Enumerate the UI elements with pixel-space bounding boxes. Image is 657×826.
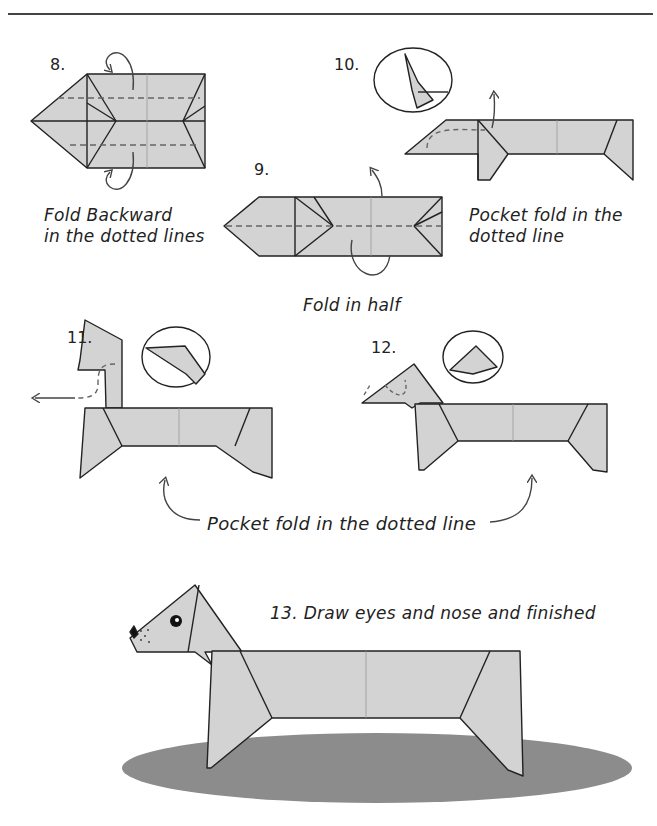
- arrow-left: [164, 480, 200, 520]
- step-8-caption-line2: in the dotted lines: [44, 226, 205, 247]
- step-10-diagram: [374, 48, 633, 180]
- step-10-number: 10.: [334, 55, 359, 74]
- step-11-number: 11.: [67, 328, 92, 347]
- step-9-diagram: [224, 170, 442, 275]
- step-8-number: 8.: [50, 55, 65, 74]
- origami-diagram: [0, 0, 657, 826]
- step-12-number: 12.: [371, 338, 396, 357]
- step-13-text: Draw eyes and nose and finished: [304, 603, 596, 623]
- step-8-caption-line1: Fold Backward: [44, 205, 172, 226]
- step-9-number: 9.: [254, 160, 269, 179]
- step-12-diagram: [362, 331, 607, 472]
- step-10-caption-line1: Pocket fold in the: [469, 205, 623, 226]
- step-9-caption: Fold in half: [303, 295, 401, 316]
- ground-shadow: [122, 733, 632, 803]
- step-13-number: 13.: [270, 603, 298, 623]
- step-10-caption-line2: dotted line: [469, 226, 564, 247]
- arrow-right: [490, 478, 532, 522]
- shared-caption: Pocket fold in the dotted line: [207, 513, 476, 534]
- step-13-caption: 13. Draw eyes and nose and finished: [270, 603, 596, 624]
